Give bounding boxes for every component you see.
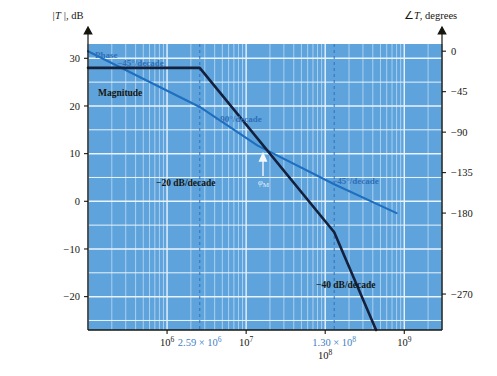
right-tick-0: 0 bbox=[451, 46, 456, 57]
left-tick-2: 10 bbox=[70, 148, 81, 159]
right-tick-2: −90 bbox=[451, 127, 467, 138]
right-tick-3: −135 bbox=[451, 167, 473, 178]
left-tick-1: 20 bbox=[70, 101, 81, 112]
left-tick-0: 30 bbox=[70, 53, 81, 64]
right-tick-5: −270 bbox=[451, 289, 473, 300]
right-axis-title: ∠T, degrees bbox=[404, 10, 457, 21]
magnitude-slope-label-2: −40 dB/decade bbox=[316, 280, 376, 290]
bode-plot-svg: |T |, dB ∠T, degrees 3020100−10−20 0−45−… bbox=[0, 0, 497, 376]
phase-slope-label-2: −90°/decade bbox=[215, 114, 262, 124]
right-tick-1: −45 bbox=[451, 86, 467, 97]
phase-slope-label-3: −45°/decade bbox=[332, 176, 379, 186]
left-tick-3: 0 bbox=[75, 196, 80, 207]
magnitude-slope-label-1: −20 dB/decade bbox=[156, 178, 216, 188]
left-tick-4: −10 bbox=[64, 244, 80, 255]
phase-series-label: Phase bbox=[95, 50, 118, 60]
right-tick-4: −180 bbox=[451, 208, 473, 219]
x-tick-1: 2.59 × 106 bbox=[178, 335, 222, 348]
magnitude-series-label: Magnitude bbox=[98, 88, 142, 98]
bode-plot-figure: |T |, dB ∠T, degrees 3020100−10−20 0−45−… bbox=[0, 0, 497, 376]
x-tick-3: 1.30 × 108 bbox=[312, 335, 356, 348]
phase-slope-label-1: −45°/decade bbox=[117, 58, 164, 68]
left-axis-title: |T |, dB bbox=[52, 10, 84, 21]
left-tick-5: −20 bbox=[64, 291, 80, 302]
